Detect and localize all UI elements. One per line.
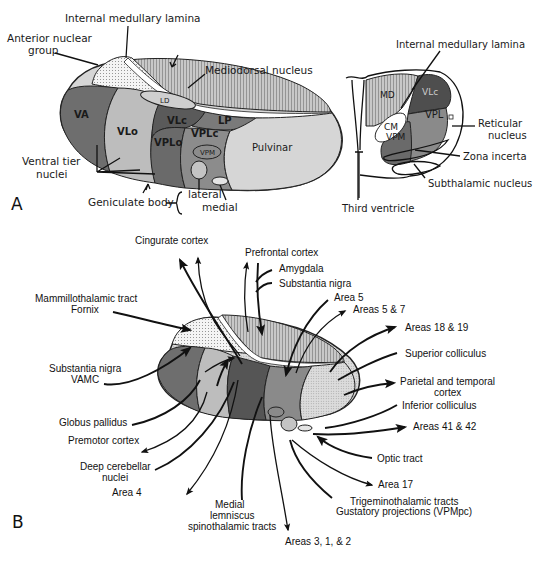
zona-incerta-label: Zona incerta bbox=[463, 151, 527, 162]
substantia-nigra-vamc-label-1: Substantia nigra bbox=[49, 363, 122, 374]
anterior-nuclear-label-1: Anterior nuclear bbox=[7, 32, 93, 44]
parietal-temporal-label-2: cortex bbox=[434, 387, 461, 398]
panel-a-letter: A bbox=[11, 194, 23, 214]
areas-3-1-2-label: Areas 3, 1, & 2 bbox=[285, 536, 352, 547]
vlc-cross-label: VLc bbox=[422, 87, 438, 97]
gustatory-label: Gustatory projections (VPMpc) bbox=[336, 506, 472, 517]
cingurate-cortex-label: Cingurate cortex bbox=[135, 235, 208, 246]
vpl-cross-label: VPL bbox=[425, 109, 444, 120]
lp-label: LP bbox=[218, 115, 232, 126]
mammillothalamic-label-2: Fornix bbox=[71, 304, 99, 315]
ventral-tier-label-1: Ventral tier bbox=[22, 155, 81, 167]
premotor-cortex-label: Premotor cortex bbox=[68, 435, 139, 446]
mgn-b bbox=[298, 425, 312, 431]
panel-b-letter: B bbox=[12, 512, 24, 532]
mediodorsal-label: Mediodorsal nucleus bbox=[205, 64, 313, 76]
area-5-label: Area 5 bbox=[334, 292, 364, 303]
anterior-nuclear-label-2: group bbox=[28, 44, 59, 56]
medial-label: medial bbox=[202, 201, 238, 213]
md-cross-label: MD bbox=[380, 90, 395, 100]
superior-colliculus-label: Superior colliculus bbox=[405, 348, 486, 359]
lateral-geniculate bbox=[191, 161, 207, 179]
medial-geniculate bbox=[212, 177, 228, 185]
vplc-label: VPLc bbox=[191, 128, 218, 139]
vlo-label: VLo bbox=[117, 126, 138, 137]
lgn-b bbox=[281, 417, 297, 431]
lateral-label: lateral bbox=[188, 188, 222, 200]
inferior-colliculus-label: Inferior colliculus bbox=[402, 400, 476, 411]
parietal-temporal-label-1: Parietal and temporal bbox=[400, 376, 495, 387]
area-17-label: Area 17 bbox=[378, 479, 413, 490]
cs-internal-medullary-label: Internal medullary lamina bbox=[396, 39, 525, 50]
cm-cross-label: CM bbox=[384, 122, 398, 132]
prefrontal-cortex-label: Prefrontal cortex bbox=[245, 247, 318, 258]
deep-cerebellar-label-1: Deep cerebellar bbox=[80, 461, 151, 472]
thalamus-figure: VA VLo VLc LD LP VPLo VPLc VPM Pulvinar … bbox=[0, 0, 543, 561]
medial-lemniscus-label-1: Medial bbox=[215, 499, 244, 510]
internal-medullary-lamina-label: Internal medullary lamina bbox=[65, 12, 201, 24]
amygdala-label: Amygdala bbox=[279, 263, 324, 274]
ventral-dark-b bbox=[227, 356, 270, 420]
vlc-label: VLc bbox=[167, 115, 187, 126]
areas-5-7-label: Areas 5 & 7 bbox=[353, 304, 406, 315]
optic-tract-label: Optic tract bbox=[377, 453, 423, 464]
panel-a-thalamus: VA VLo VLc LD LP VPLo VPLc VPM Pulvinar … bbox=[7, 12, 342, 214]
subthalamic-label: Subthalamic nucleus bbox=[428, 178, 532, 189]
pulvinar-label: Pulvinar bbox=[252, 142, 293, 153]
subthalamic-shape bbox=[392, 162, 440, 175]
medial-lemniscus-label-2: lemniscus bbox=[210, 510, 254, 521]
mammillothalamic-label-1: Mammillothalamic tract bbox=[35, 293, 137, 304]
third-ventricle-shape bbox=[352, 80, 364, 200]
substantia-nigra-label: Substantia nigra bbox=[279, 278, 352, 289]
va-label: VA bbox=[74, 109, 89, 120]
substantia-nigra-vamc-label-2: VAMC bbox=[71, 374, 99, 385]
vpm-label: VPM bbox=[200, 149, 215, 157]
areas-18-19-label: Areas 18 & 19 bbox=[405, 322, 469, 333]
ventral-tier-label-2: nuclei bbox=[36, 168, 67, 180]
panel-b-thalamus: Cingurate cortex Prefrontal cortex Amygd… bbox=[12, 235, 495, 547]
areas-41-42-label: Areas 41 & 42 bbox=[413, 421, 477, 432]
reticular-label-1: Reticular bbox=[478, 118, 523, 129]
medial-lemniscus-label-3: spinothalamic tracts bbox=[188, 521, 276, 532]
globus-pallidus-label: Globus pallidus bbox=[59, 417, 127, 428]
reticular-label-2: nucleus bbox=[488, 130, 527, 141]
geniculate-body-label: Geniculate body bbox=[88, 196, 174, 208]
vplo-label: VPLo bbox=[154, 137, 182, 148]
vpm-cross-label: VPM bbox=[386, 132, 405, 142]
area-4-label: Area 4 bbox=[112, 487, 142, 498]
third-ventricle-label: Third ventricle bbox=[341, 203, 414, 214]
deep-cerebellar-label-2: nuclei bbox=[102, 472, 128, 483]
panel-a-cross-section: MD VLc CM VPL VPM Internal medullary lam… bbox=[341, 39, 532, 214]
ld-label: LD bbox=[160, 97, 169, 105]
